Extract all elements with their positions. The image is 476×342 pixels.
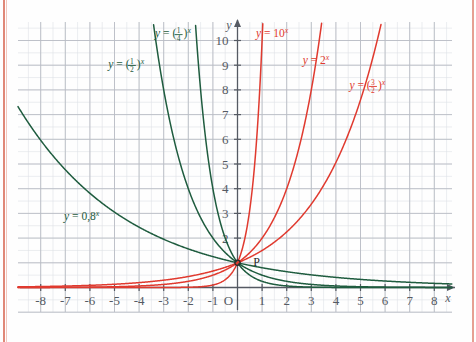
svg-text:-7: -7: [60, 293, 71, 308]
curve-2: [18, 107, 452, 284]
svg-text:-1: -1: [207, 293, 218, 308]
svg-text:8: 8: [222, 82, 229, 97]
svg-text:y = (: y = (: [154, 27, 176, 40]
svg-text:8: 8: [431, 293, 438, 308]
curves: [18, 23, 452, 287]
svg-text:-3: -3: [158, 293, 169, 308]
svg-text:y = 10x: y = 10x: [255, 25, 289, 40]
svg-text:-4: -4: [134, 293, 145, 308]
svg-text:y = (: y = (: [348, 79, 370, 92]
annotation-label: y = 0,8x: [63, 208, 100, 223]
annotation-label: y = 10x: [255, 25, 289, 40]
svg-text:O: O: [224, 293, 233, 308]
svg-text:3: 3: [222, 206, 229, 221]
svg-text:5: 5: [222, 157, 229, 172]
svg-text:)x: )x: [184, 25, 192, 40]
svg-text:4: 4: [333, 293, 340, 308]
svg-text:2: 2: [130, 65, 134, 74]
curve-4: [18, 23, 322, 287]
figure-page: xy -8-7-6-5-4-3-2-1123456782345678910O P…: [0, 0, 476, 342]
svg-text:2: 2: [283, 293, 290, 308]
svg-text:x: x: [444, 291, 451, 305]
svg-text:6: 6: [222, 132, 229, 147]
svg-text:3: 3: [308, 293, 315, 308]
curve-3: [18, 25, 381, 287]
svg-text:4: 4: [177, 34, 181, 43]
svg-text:7: 7: [406, 293, 413, 308]
svg-text:-8: -8: [35, 293, 46, 308]
annotation-label: y = (32)x: [348, 77, 385, 95]
svg-text:-5: -5: [109, 293, 120, 308]
svg-text:y: y: [225, 18, 232, 32]
svg-text:4: 4: [222, 181, 229, 196]
exponential-functions-chart: xy -8-7-6-5-4-3-2-1123456782345678910O P…: [0, 0, 476, 342]
svg-text:10: 10: [216, 33, 229, 48]
svg-text:2: 2: [371, 86, 375, 95]
svg-text:9: 9: [222, 58, 229, 73]
svg-text:5: 5: [357, 293, 364, 308]
svg-text:y = 0,8x: y = 0,8x: [63, 208, 100, 223]
svg-text:)x: )x: [137, 56, 145, 71]
svg-text:7: 7: [222, 107, 229, 122]
annotation-label: y = 2x: [302, 52, 330, 66]
svg-text:y = (: y = (: [107, 58, 129, 71]
svg-text:-2: -2: [183, 293, 194, 308]
svg-text:-6: -6: [84, 293, 95, 308]
svg-text:6: 6: [382, 293, 389, 308]
svg-text:y = 2x: y = 2x: [302, 52, 330, 66]
svg-text:1: 1: [259, 293, 266, 308]
svg-text:P: P: [253, 255, 260, 269]
